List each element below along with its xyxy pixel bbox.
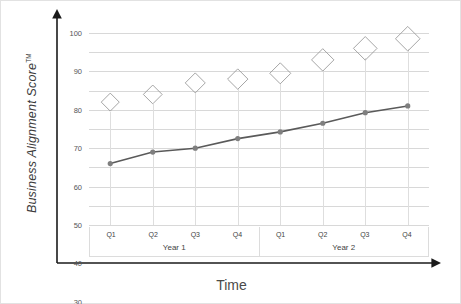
x-axis-title: Time xyxy=(1,277,461,293)
data-point-marker xyxy=(235,136,240,141)
quarter-label: Q2 xyxy=(132,227,174,241)
series-layer xyxy=(89,33,429,225)
quarter-label: Q3 xyxy=(174,227,216,241)
diamond-series-markers xyxy=(101,26,420,111)
quarter-label: Q3 xyxy=(344,227,386,241)
chart-figure: Business Alignment ScoreTM 1009080706050… xyxy=(0,0,461,304)
diamond-marker xyxy=(312,49,334,71)
y-axis-tick-label: 60 xyxy=(74,182,82,191)
line-series-path xyxy=(110,106,408,164)
quarter-label: Q4 xyxy=(216,227,258,241)
year-label: Year 2 xyxy=(259,241,429,256)
trademark-symbol: TM xyxy=(25,53,32,63)
y-axis-tick-label: 80 xyxy=(74,105,82,114)
data-point-marker xyxy=(320,121,325,126)
gridline: 0 xyxy=(89,225,429,226)
diamond-marker xyxy=(143,85,162,104)
y-axis-title-text: Business Alignment Score xyxy=(25,63,39,213)
data-point-marker xyxy=(363,110,368,115)
y-axis-tick-label: 90 xyxy=(74,67,82,76)
diamond-marker xyxy=(270,63,291,84)
y-axis-tick-label: 50 xyxy=(74,221,82,230)
y-axis-tick-label: 70 xyxy=(74,144,82,153)
plot-area: 1009080706050403020100 xyxy=(89,33,429,225)
y-axis-tick-label: 30 xyxy=(74,297,82,304)
year-label: Year 1 xyxy=(90,241,259,256)
year-row: Year 1Year 2 xyxy=(90,241,428,256)
y-axis-title: Business Alignment ScoreTM xyxy=(25,28,39,238)
diamond-marker xyxy=(185,73,205,93)
quarter-label: Q1 xyxy=(90,227,132,241)
quarter-label: Q2 xyxy=(302,227,344,241)
quarter-row: Q1Q2Q3Q4Q1Q2Q3Q4 xyxy=(90,227,428,241)
diamond-marker xyxy=(228,69,248,89)
quarter-label: Q1 xyxy=(259,227,302,241)
y-axis-tick-label: 100 xyxy=(69,29,82,38)
category-axis: Q1Q2Q3Q4Q1Q2Q3Q4 Year 1Year 2 xyxy=(89,227,429,257)
data-point-marker xyxy=(193,146,198,151)
data-point-marker xyxy=(150,149,155,154)
diamond-marker xyxy=(101,93,119,111)
y-axis-tick-label: 40 xyxy=(74,259,82,268)
data-point-marker xyxy=(278,129,283,134)
diamond-marker xyxy=(353,37,377,61)
data-point-marker xyxy=(108,161,113,166)
quarter-label: Q4 xyxy=(386,227,428,241)
data-point-marker xyxy=(405,103,410,108)
